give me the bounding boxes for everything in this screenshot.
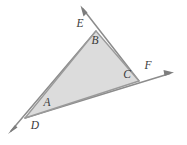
angle-label-B: B bbox=[91, 34, 98, 46]
angle-label-C: C bbox=[123, 68, 131, 80]
ray-label-D: D bbox=[30, 119, 40, 131]
ray-label-E: E bbox=[75, 17, 83, 29]
ray-label-F: F bbox=[143, 59, 152, 71]
figure-canvas: A B C D E F bbox=[0, 0, 187, 145]
geometry-figure: A B C D E F bbox=[0, 0, 187, 145]
angle-label-A: A bbox=[42, 96, 51, 108]
